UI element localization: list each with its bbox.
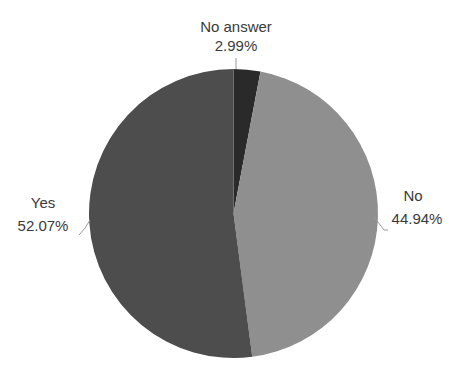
label-no-answer: No answer 2.99% bbox=[196, 17, 276, 55]
label-no-pct: 44.94% bbox=[382, 209, 452, 228]
pie-slice-no bbox=[234, 72, 379, 357]
pie-slice-yes bbox=[89, 69, 252, 358]
label-no: No 44.94% bbox=[382, 186, 452, 228]
label-yes-pct: 52.07% bbox=[8, 216, 78, 235]
pie-slices bbox=[89, 69, 378, 358]
label-no-answer-name: No answer bbox=[196, 17, 276, 36]
label-yes: Yes 52.07% bbox=[8, 193, 78, 235]
leader-line-yes bbox=[79, 220, 90, 235]
label-no-name: No bbox=[374, 186, 452, 205]
label-yes-name: Yes bbox=[8, 193, 78, 212]
label-no-answer-pct: 2.99% bbox=[196, 36, 276, 55]
